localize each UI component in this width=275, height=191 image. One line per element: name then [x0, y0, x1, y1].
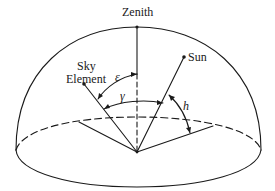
horizon-front [16, 150, 261, 187]
horizon-back [16, 117, 261, 150]
h-angle-label: h [183, 100, 189, 112]
epsilon-angle-label: ε [115, 71, 120, 83]
hemisphere-dome [16, 27, 261, 150]
sun-point [182, 55, 186, 59]
sky-element-label-line2: Element [66, 73, 106, 85]
zenith-label: Zenith [122, 6, 153, 18]
gamma-angle-label: γ [120, 90, 125, 102]
sun-ray [137, 57, 184, 152]
gamma-arc [104, 101, 163, 109]
sky-element-label-line1: Sky [77, 60, 96, 72]
sky-element-ray [84, 84, 137, 152]
sky-element-horizon-projection [79, 122, 137, 152]
origin-point [136, 151, 139, 154]
zenith-point [135, 25, 138, 28]
sky-geometry-diagram [0, 0, 275, 191]
sun-label: Sun [188, 51, 207, 63]
gamma-arrow-left [104, 104, 110, 109]
